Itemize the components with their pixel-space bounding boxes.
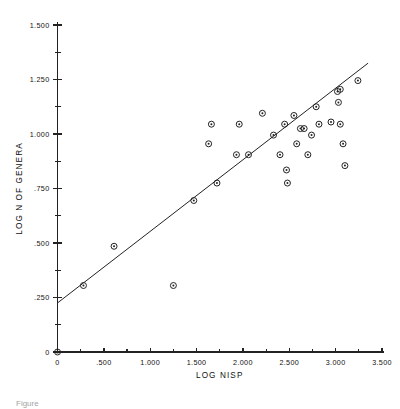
data-point-center: [208, 143, 210, 145]
x-tick-label: 3.000: [326, 358, 346, 367]
data-point: [342, 163, 348, 169]
figure-caption: Figure: [16, 400, 39, 408]
data-point-center: [315, 106, 317, 108]
y-tick-label: 1.000: [30, 130, 50, 139]
data-point: [214, 180, 220, 186]
x-tick-label: .500: [96, 358, 111, 367]
data-point: [301, 126, 307, 132]
data-point: [245, 152, 251, 158]
regression-fit-line: [58, 63, 369, 303]
data-point: [284, 180, 290, 186]
data-point: [328, 119, 334, 125]
data-point-center: [330, 121, 332, 123]
data-point-center: [303, 128, 305, 130]
origin-center: [56, 350, 59, 353]
y-tick-label: .750: [34, 184, 49, 193]
data-point: [337, 121, 343, 127]
data-point-center: [339, 88, 341, 90]
y-tick-label: 0: [45, 348, 49, 357]
data-point: [284, 167, 290, 173]
data-point: [294, 141, 300, 147]
data-point: [305, 152, 311, 158]
data-point-center: [113, 245, 115, 247]
data-point-center: [286, 169, 288, 171]
data-point: [236, 121, 242, 127]
figure-caption-strip: Figure: [0, 400, 400, 409]
data-points-group: [55, 78, 361, 355]
data-point-center: [307, 154, 309, 156]
plot-canvas: 0.5001.0001.5002.0002.5003.0003.5000.250…: [0, 0, 400, 409]
y-tick-label: .500: [34, 239, 49, 248]
data-point-center: [311, 134, 313, 136]
data-point-center: [339, 123, 341, 125]
x-axis-title: LOG NISP: [196, 371, 243, 380]
data-point-center: [357, 80, 359, 82]
data-point-center: [286, 182, 288, 184]
data-point-center: [172, 285, 174, 287]
data-point: [282, 121, 288, 127]
data-point: [335, 99, 341, 105]
data-point-center: [318, 123, 320, 125]
data-point-center: [344, 165, 346, 167]
data-point: [208, 121, 214, 127]
x-tick-label: 3.500: [372, 358, 392, 367]
data-point: [316, 121, 322, 127]
axes-group: [58, 22, 385, 352]
y-tick-label: 1.500: [30, 21, 50, 30]
y-tick-label: 1.250: [30, 75, 50, 84]
tick-labels-group: 0.5001.0001.5002.0002.5003.0003.5000.250…: [30, 21, 392, 367]
data-point-center: [296, 143, 298, 145]
data-point: [259, 110, 265, 116]
data-point-center: [247, 154, 249, 156]
data-point: [340, 141, 346, 147]
data-point: [170, 283, 176, 289]
data-point: [111, 243, 117, 249]
data-point: [206, 141, 212, 147]
data-point: [291, 112, 297, 118]
data-point-center: [82, 285, 84, 287]
y-tick-label: .250: [34, 293, 49, 302]
data-point: [313, 104, 319, 110]
x-tick-label: 1.000: [140, 358, 160, 367]
data-point-center: [273, 134, 275, 136]
data-point-center: [293, 114, 295, 116]
data-point-center: [337, 101, 339, 103]
data-point-center: [193, 199, 195, 201]
data-point-center: [342, 143, 344, 145]
data-point-center: [210, 123, 212, 125]
data-point-center: [238, 123, 240, 125]
regression-line: [58, 63, 369, 303]
x-tick-label: 0: [55, 358, 59, 367]
data-point: [191, 197, 197, 203]
data-point: [355, 78, 361, 84]
scatter-plot-figure: 0.5001.0001.5002.0002.5003.0003.5000.250…: [0, 0, 400, 409]
x-tick-label: 2.000: [233, 358, 253, 367]
data-point-center: [279, 154, 281, 156]
x-tick-label: 1.500: [187, 358, 207, 367]
data-point: [277, 152, 283, 158]
y-axis-title: LOG N OF GENERA: [15, 142, 24, 234]
x-tick-label: 2.500: [279, 358, 299, 367]
axis-titles-group: LOG NISPLOG N OF GENERA: [15, 142, 243, 380]
data-point-center: [216, 182, 218, 184]
data-point-center: [261, 112, 263, 114]
data-point: [309, 132, 315, 138]
ticks-group: [53, 25, 382, 352]
data-point-center: [235, 154, 237, 156]
data-point: [233, 152, 239, 158]
data-point-center: [284, 123, 286, 125]
